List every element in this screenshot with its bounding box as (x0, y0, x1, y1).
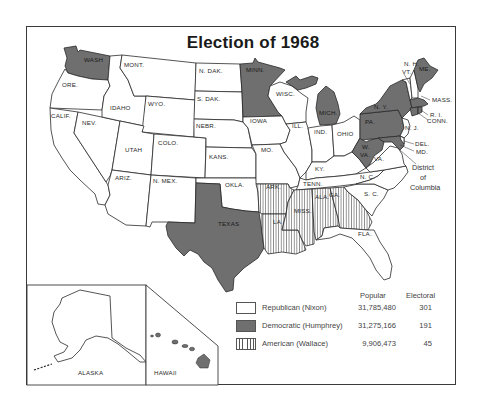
legend-party: Republican (Nixon) (262, 303, 327, 312)
svg-text:ME.: ME. (419, 65, 431, 72)
svg-text:N. DAK.: N. DAK. (199, 67, 223, 74)
svg-text:LA.: LA. (273, 218, 283, 225)
legend-popular: 31,275,166 (344, 321, 396, 330)
svg-text:of: of (420, 173, 426, 182)
republican-swatch (236, 302, 256, 314)
legend-popular: 31,785,480 (344, 303, 396, 312)
svg-text:ILL.: ILL. (292, 122, 303, 129)
democratic-swatch (236, 320, 256, 332)
svg-text:District: District (412, 163, 434, 172)
legend-electoral: 45 (406, 339, 432, 348)
svg-text:MD.: MD. (416, 148, 428, 155)
map-title: Election of 1968 (160, 33, 346, 53)
svg-text:N. J.: N. J. (405, 124, 419, 131)
svg-text:NEV.: NEV. (82, 119, 97, 126)
svg-text:COLO.: COLO. (158, 139, 178, 146)
svg-text:ARIZ.: ARIZ. (115, 174, 132, 181)
svg-text:MONT.: MONT. (124, 61, 144, 68)
state-kans (205, 147, 256, 178)
svg-text:MICH.: MICH. (319, 109, 338, 116)
svg-text:DEL.: DEL. (415, 140, 430, 147)
svg-text:IOWA: IOWA (250, 117, 268, 124)
svg-text:ALA.: ALA. (315, 193, 329, 200)
svg-text:NEBR.: NEBR. (196, 122, 216, 129)
svg-text:MO.: MO. (261, 146, 273, 153)
svg-text:MASS.: MASS. (432, 96, 452, 103)
svg-text:OKLA.: OKLA. (225, 181, 244, 188)
svg-text:CONN.: CONN. (427, 117, 448, 124)
svg-text:KY.: KY. (315, 165, 325, 172)
svg-text:WYO.: WYO. (148, 100, 165, 107)
state-pa (360, 110, 404, 140)
svg-text:S. DAK.: S. DAK. (197, 95, 220, 102)
legend-row-democratic: Democratic (Humphrey) 31,275,166 191 (234, 320, 454, 334)
svg-text:TEXAS: TEXAS (218, 220, 239, 227)
svg-text:IDAHO: IDAHO (110, 104, 131, 111)
legend-party: American (Wallace) (262, 339, 328, 348)
legend-header-popular: Popular (360, 291, 386, 300)
svg-text:ALASKA: ALASKA (78, 369, 104, 376)
svg-text:N. C.: N. C. (360, 173, 375, 180)
svg-text:N. H.: N. H. (404, 60, 419, 67)
svg-text:VA.: VA. (374, 155, 384, 162)
american-swatch (236, 338, 256, 350)
svg-text:R. I.: R. I. (430, 111, 442, 118)
legend-electoral: 191 (406, 321, 432, 330)
svg-text:VT.: VT. (402, 68, 412, 75)
svg-text:S. C.: S. C. (364, 190, 379, 197)
legend-header-electoral: Electoral (406, 291, 435, 300)
svg-text:WASH: WASH (84, 56, 103, 63)
legend-row-republican: Republican (Nixon) 31,785,480 301 (234, 302, 454, 316)
legend-party: Democratic (Humphrey) (262, 321, 343, 330)
svg-text:KANS.: KANS. (209, 153, 229, 160)
legend-electoral: 301 (406, 303, 432, 312)
state-conn (410, 107, 418, 116)
svg-text:PA.: PA. (365, 118, 375, 125)
svg-text:N. MEX.: N. MEX. (153, 177, 178, 184)
state-mich (316, 86, 340, 125)
svg-text:UTAH: UTAH (125, 146, 142, 153)
svg-text:WISC.: WISC. (276, 90, 295, 97)
legend-popular: 9,906,473 (344, 339, 396, 348)
legend-row-american: American (Wallace) 9,906,473 45 (234, 338, 454, 352)
svg-text:ORE.: ORE. (62, 81, 78, 88)
svg-text:MISS.: MISS. (294, 207, 312, 214)
svg-text:FLA.: FLA. (358, 230, 372, 237)
svg-text:W.: W. (362, 143, 370, 150)
state-fla (316, 226, 392, 280)
svg-text:N. Y.: N. Y. (374, 103, 388, 110)
svg-text:GA.: GA. (329, 191, 340, 198)
svg-text:IND.: IND. (314, 128, 327, 135)
state-mass (410, 98, 428, 108)
svg-text:HAWAII: HAWAII (154, 369, 177, 376)
svg-text:MINN.: MINN. (246, 66, 265, 73)
svg-text:OHIO: OHIO (337, 130, 354, 137)
svg-text:CALIF.: CALIF. (51, 112, 71, 119)
svg-text:TENN.: TENN. (303, 180, 323, 187)
svg-text:ARK.: ARK. (266, 183, 281, 190)
svg-text:VA.: VA. (360, 151, 370, 158)
svg-text:Columbia: Columbia (410, 183, 440, 192)
